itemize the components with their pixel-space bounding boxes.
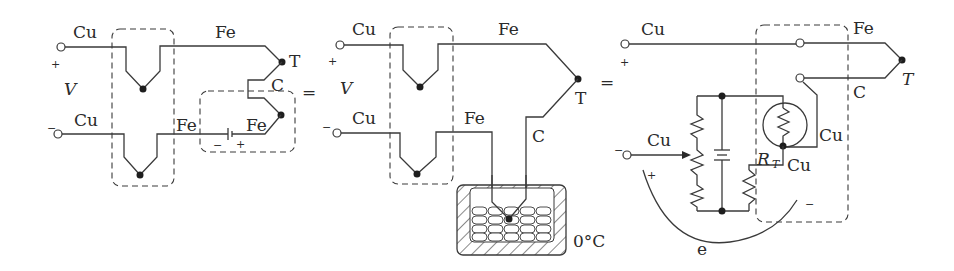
label-cu-top: Cu	[641, 19, 665, 39]
isothermal-block	[390, 27, 453, 184]
wire-bottom	[62, 134, 228, 175]
label-T: T	[575, 88, 587, 108]
label-cu-bottom: Cu	[74, 110, 98, 130]
terminal-plus	[57, 43, 65, 51]
label-ice-bath: 0°C	[573, 231, 605, 251]
label-fe-mid: Fe	[176, 115, 197, 135]
label-cu-top: Cu	[352, 19, 376, 39]
label-V: V	[64, 79, 78, 99]
thermocouple-diagram: Cu Fe Cu Fe Fe T C V + − − + =	[0, 0, 954, 271]
label-fe-bottom: Fe	[464, 108, 485, 128]
label-battery-minus: −	[213, 139, 222, 152]
ice-bath	[457, 175, 566, 255]
label-plus-arc: +	[647, 169, 656, 182]
label-minus: −	[47, 122, 56, 135]
resistor-lower	[743, 170, 755, 211]
label-V: V	[340, 78, 354, 98]
equals-sign-1: =	[302, 82, 316, 102]
label-minus-arc: −	[805, 198, 814, 211]
emf-arc	[643, 170, 797, 243]
isothermal-block	[112, 29, 174, 186]
wire-top	[344, 44, 578, 87]
panel-3-circuit: Cu Fe C T Cu R T Cu Cu e + + − −	[614, 18, 915, 259]
label-T: T	[902, 69, 915, 89]
wire-cu-right	[784, 82, 817, 147]
label-C: C	[532, 126, 545, 146]
wiper-arrow	[682, 151, 691, 159]
label-battery-plus: +	[236, 138, 245, 151]
label-C: C	[853, 82, 866, 102]
label-minus-left: −	[614, 144, 623, 157]
label-fe-top: Fe	[498, 19, 519, 39]
label-plus-top: +	[620, 56, 629, 69]
label-fe-right: Fe	[246, 115, 267, 135]
panel-2-circuit: Cu Fe Cu Fe T C V + − 0°C	[322, 19, 605, 255]
reference-junction	[506, 216, 513, 223]
label-cu-below: Cu	[787, 155, 811, 175]
label-fe: Fe	[853, 18, 874, 38]
equals-sign-2: =	[600, 72, 614, 92]
label-cu-right: Cu	[819, 125, 843, 145]
label-cu-bottom: Cu	[352, 108, 376, 128]
label-cu-top: Cu	[73, 22, 97, 42]
label-RT: R	[756, 149, 770, 169]
label-C: C	[271, 75, 284, 95]
label-e: e	[697, 239, 707, 259]
label-plus: +	[51, 58, 60, 71]
label-cu-input: Cu	[647, 130, 671, 150]
panel-1-circuit: Cu Fe Cu Fe Fe T C V + − − +	[47, 22, 301, 186]
wire-fe	[804, 43, 902, 60]
label-plus: +	[328, 55, 337, 68]
bridge-top	[697, 96, 783, 108]
instrument-box	[756, 25, 848, 222]
wire-C	[804, 60, 902, 78]
potentiometer	[691, 96, 703, 211]
label-minus: −	[322, 121, 331, 134]
label-fe-top: Fe	[215, 22, 236, 42]
resistor-RT	[778, 108, 789, 146]
label-T: T	[289, 51, 301, 71]
